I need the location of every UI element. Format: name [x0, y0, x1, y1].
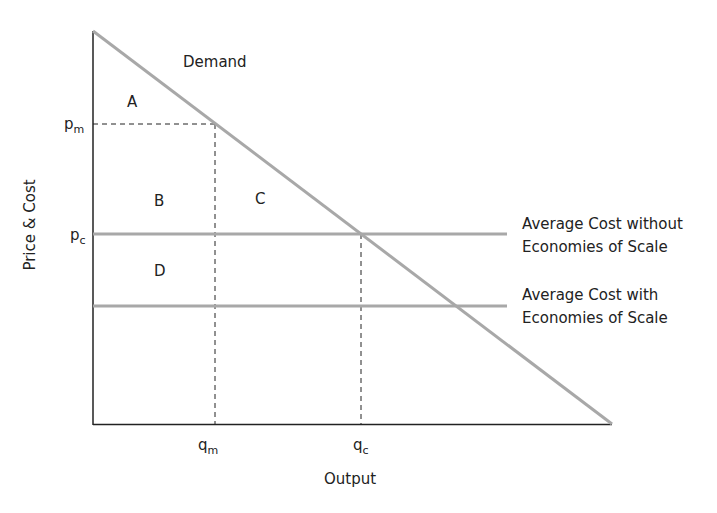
pc-base: p [70, 226, 80, 244]
qm-tick-label: qm [198, 436, 218, 456]
pc-tick-label: pc [70, 226, 86, 246]
y-axis-title: Price & Cost [21, 179, 39, 270]
qm-subscript: m [208, 444, 219, 457]
ac-with-label-line2: Economies of Scale [522, 309, 668, 327]
qc-tick-label: qc [353, 436, 369, 456]
region-a-label: A [127, 93, 137, 111]
x-axis-title: Output [324, 470, 376, 488]
region-c-label: C [255, 190, 265, 208]
ac-without-label-line1: Average Cost without [522, 215, 683, 233]
qm-base: q [198, 436, 208, 454]
demand-label: Demand [183, 53, 247, 71]
ac-with-label-line1: Average Cost with [522, 286, 658, 304]
region-b-label: B [154, 192, 164, 210]
pm-tick-label: pm [64, 115, 84, 135]
pm-base: p [64, 115, 74, 133]
pm-subscript: m [74, 123, 85, 136]
qc-base: q [353, 436, 363, 454]
ac-without-label-line2: Economies of Scale [522, 238, 668, 256]
pc-subscript: c [80, 234, 86, 247]
qc-subscript: c [363, 444, 369, 457]
region-d-label: D [154, 262, 166, 280]
